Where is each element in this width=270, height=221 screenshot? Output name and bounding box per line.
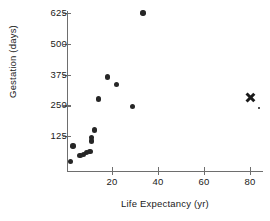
x-tick-label: 80 xyxy=(235,176,265,187)
data-point xyxy=(68,159,73,164)
data-point xyxy=(92,127,97,132)
data-point xyxy=(96,96,101,101)
scatter-plot: 125250375500625 20406080 Gestation (days… xyxy=(0,0,270,221)
x-tick-mark xyxy=(250,167,251,175)
y-tick-label: 250 xyxy=(27,99,67,110)
y-tick-label: 125 xyxy=(27,130,67,141)
data-point xyxy=(89,138,94,143)
y-axis-line xyxy=(67,11,68,172)
y-tick-label: 625 xyxy=(27,7,67,18)
data-point xyxy=(130,104,135,109)
x-tick-label: 20 xyxy=(97,176,127,187)
x-tick-label: 60 xyxy=(189,176,219,187)
x-axis-line xyxy=(67,171,263,172)
data-point-x-marker xyxy=(245,92,256,103)
x-axis-title: Life Expectancy (yr) xyxy=(67,198,263,209)
x-tick-mark xyxy=(112,167,113,175)
data-point xyxy=(105,74,110,79)
data-point xyxy=(114,82,119,87)
y-axis-title: Gestation (days) xyxy=(7,2,18,122)
y-tick-label: 375 xyxy=(27,69,67,80)
data-point xyxy=(140,10,145,15)
data-point xyxy=(77,153,82,158)
x-tick-mark xyxy=(204,167,205,175)
x-tick-label: 40 xyxy=(143,176,173,187)
y-tick-label: 500 xyxy=(27,38,67,49)
scan-speck xyxy=(258,107,260,109)
x-tick-mark xyxy=(158,167,159,175)
data-point xyxy=(70,143,75,148)
